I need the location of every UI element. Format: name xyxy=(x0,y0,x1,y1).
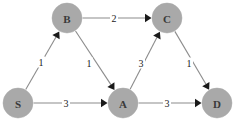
graph-node-s[interactable]: S xyxy=(3,88,33,118)
graph-node-d[interactable]: D xyxy=(202,88,232,118)
node-circle[interactable] xyxy=(52,3,82,33)
edge-weight-b-c: 2 xyxy=(110,13,118,24)
graph-edge-s-a xyxy=(34,99,108,107)
node-circle[interactable] xyxy=(202,88,232,118)
edge-weight-backdrop xyxy=(163,98,171,109)
edge-line xyxy=(76,31,111,85)
edge-weight-s-b: 1 xyxy=(37,57,45,68)
edge-weight-a-c: 3 xyxy=(137,58,145,69)
edge-weight-backdrop xyxy=(137,58,145,69)
edge-weight-backdrop xyxy=(85,58,93,69)
edge-arrowhead xyxy=(107,82,114,90)
graph-edge-b-a xyxy=(76,31,115,90)
node-circle[interactable] xyxy=(152,3,182,33)
edge-arrowhead xyxy=(145,14,152,22)
graph-canvas: 1321331 SBACD xyxy=(0,0,234,130)
node-circle[interactable] xyxy=(3,88,33,118)
edge-weight-backdrop xyxy=(62,98,70,109)
edge-weight-a-d: 3 xyxy=(163,98,171,109)
graph-node-a[interactable]: A xyxy=(108,88,138,118)
edge-weight-backdrop xyxy=(37,57,45,68)
edge-weight-c-d: 1 xyxy=(185,58,193,69)
edge-weight-s-a: 3 xyxy=(62,98,70,109)
graph-node-b[interactable]: B xyxy=(52,3,82,33)
edge-weight-b-a: 1 xyxy=(85,58,93,69)
graph-edge-a-c xyxy=(130,32,160,89)
edge-arrowhead xyxy=(101,99,108,107)
edge-weight-backdrop xyxy=(185,58,193,69)
graph-node-c[interactable]: C xyxy=(152,3,182,33)
node-circle[interactable] xyxy=(108,88,138,118)
edge-weight-backdrop xyxy=(110,13,118,24)
graph-diagram: 1321331 SBACD xyxy=(0,0,234,130)
edge-arrowhead xyxy=(195,99,202,107)
